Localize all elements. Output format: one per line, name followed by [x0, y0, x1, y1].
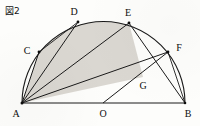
point-label-d: D — [70, 6, 77, 17]
geometry-diagram: A B O C D E F G — [0, 0, 200, 126]
point-label-e: E — [125, 7, 131, 18]
point-dot-c — [38, 51, 41, 54]
point-label-b: B — [185, 108, 192, 119]
shaded-regions-group — [22, 18, 143, 103]
point-label-o: O — [99, 108, 106, 119]
point-dot-a — [21, 102, 24, 105]
point-label-c: C — [24, 45, 31, 56]
figure-container: 図2 — [0, 0, 200, 126]
point-label-f: F — [176, 42, 182, 53]
point-dot-d — [77, 21, 80, 24]
point-label-g: G — [139, 80, 146, 91]
point-dot-e — [128, 22, 131, 25]
point-dot-f — [167, 51, 170, 54]
point-label-a: A — [12, 108, 20, 119]
segment-f-b — [168, 52, 185, 103]
point-dot-b — [184, 102, 187, 105]
